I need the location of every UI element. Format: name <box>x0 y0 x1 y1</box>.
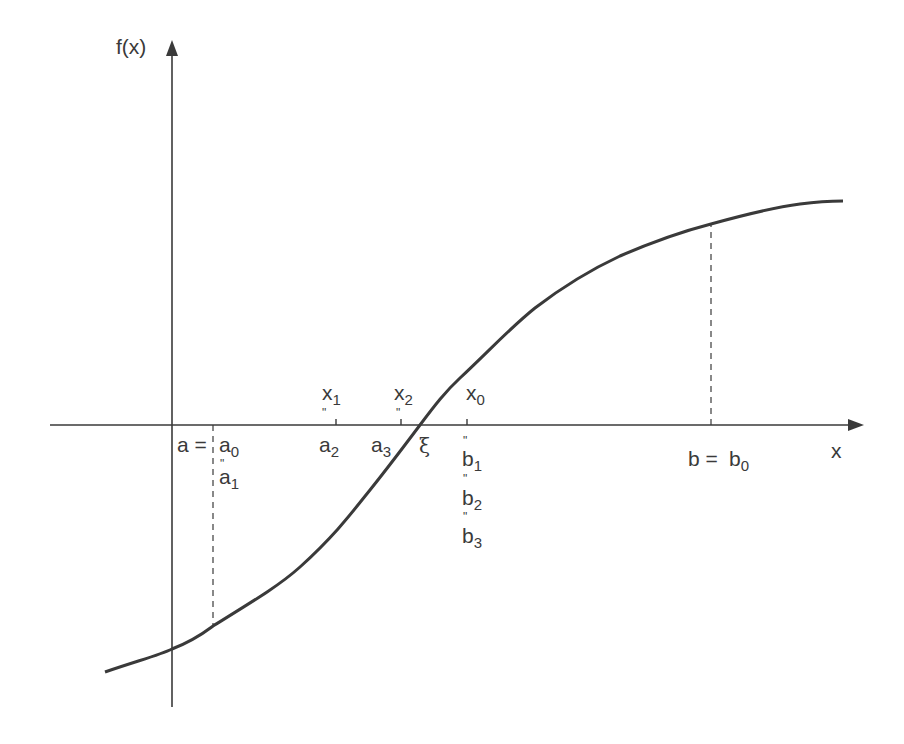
function-curve <box>105 201 843 672</box>
a2-label: a2 <box>319 434 339 455</box>
b1-label: b1 <box>462 448 482 469</box>
b3-label: b3 <box>462 525 482 546</box>
a0-label: a0 <box>219 434 239 455</box>
x-axis-label: x <box>831 440 842 461</box>
root-xi-label: ξ <box>419 436 430 456</box>
y-axis-arrowhead-icon <box>166 40 178 56</box>
x0-label: x0 <box>466 382 485 403</box>
a3-label: a3 <box>371 434 391 455</box>
x2-label: x2 <box>394 382 413 403</box>
b-equals-label: b = <box>688 448 718 469</box>
equals-mark: " <box>322 407 325 419</box>
b2-label: b2 <box>462 487 482 508</box>
bisection-diagram <box>0 0 904 744</box>
b0-label: b0 <box>729 448 749 469</box>
equals-mark: " <box>463 435 466 447</box>
equals-mark: " <box>463 511 466 523</box>
x-axis-arrowhead-icon <box>848 419 864 431</box>
a-equals-label: a = <box>177 434 207 455</box>
x1-label: x1 <box>322 382 341 403</box>
a1-label: a1 <box>219 466 239 487</box>
equals-mark: " <box>396 407 399 419</box>
y-axis-label: f(x) <box>116 36 146 57</box>
equals-mark: " <box>463 473 466 485</box>
